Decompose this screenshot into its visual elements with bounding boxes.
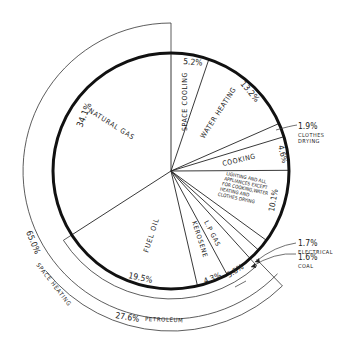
space-heating-label: SPACE HEATING [35, 261, 73, 307]
electrical-pct: 1.7% [298, 238, 317, 248]
space-cooling-pct: 5.2% [183, 56, 203, 68]
cooking-label: COOKING [222, 152, 257, 167]
water-heating-label: WATER HEATING [199, 86, 238, 140]
lighting-pct: 10.1% [267, 188, 280, 212]
callout-labels: 1.9% CLOTHES DRYING 1.7% ELECTRICAL 1.6%… [298, 121, 333, 269]
space-heating-pct: 65.0% [24, 229, 42, 255]
slice-divider [171, 59, 209, 171]
space-cooling-label: SPACE COOLING [181, 72, 189, 131]
group-labels: 65.0% SPACE HEATING 27.6% PETROLEUM [24, 229, 183, 324]
clothes-drying-pct: 1.9% [298, 121, 317, 131]
petroleum-label: PETROLEUM [145, 315, 184, 323]
petroleum-pct: 27.6% [115, 310, 141, 324]
coal-label: COAL [298, 263, 313, 269]
clothes-drying-label-2: DRYING [298, 138, 320, 144]
kerosene-pct: 4.3% [202, 271, 222, 286]
natural-gas-label: NATURAL GAS [87, 107, 136, 142]
coal-pct: 1.6% [298, 252, 317, 262]
energy-use-pie-chart: NATURAL GAS 34.1% SPACE COOLING 5.2% WAT… [0, 0, 355, 341]
fuel-oil-label: FUEL OIL [142, 217, 161, 254]
lighting-label: LIGHTING AND ALL APPLIANCES EXCEPT FOR C… [217, 170, 271, 207]
